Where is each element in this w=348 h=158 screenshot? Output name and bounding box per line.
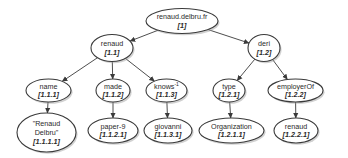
edge-arrow-n12-n121 bbox=[237, 59, 255, 81]
node-id: [1.2.1.1] bbox=[217, 130, 245, 139]
tree-node-n11: renaud[1.1] bbox=[91, 35, 135, 64]
tree-node-n1211: Organization[1.2.1.1] bbox=[199, 118, 266, 145]
node-id: [1.1.2] bbox=[102, 90, 124, 99]
tree-node-n111: name[1.1.1] bbox=[26, 79, 73, 104]
node-id: [1.1.3] bbox=[155, 90, 177, 99]
tree-node-n121: type[1.2.1] bbox=[213, 79, 247, 104]
tree-node-n112: made[1.1.2] bbox=[96, 79, 132, 104]
node-id: [1.1.3.1] bbox=[154, 130, 182, 139]
node-id: [1.2] bbox=[256, 48, 272, 57]
edge-arrow-n121-n1211 bbox=[230, 102, 231, 118]
node-id: [1] bbox=[177, 21, 187, 30]
edge-arrow-n12-n122 bbox=[273, 59, 288, 79]
edge-arrow-root-n11 bbox=[130, 30, 158, 41]
edge-arrow-root-n12 bbox=[208, 30, 249, 43]
tree-node-n1131: giovanni[1.1.3.1] bbox=[144, 118, 194, 145]
tree-node-n1111: "RenaudDelbru"[1.1.1.1] bbox=[17, 113, 78, 154]
node-id: [1.1] bbox=[104, 48, 120, 57]
tree-node-n113: knows-1[1.1.3] bbox=[146, 79, 189, 104]
node-id: [1.2.1] bbox=[218, 90, 240, 99]
node-label-superscript: -1 bbox=[174, 81, 179, 87]
tree-node-n1121: paper-9[1.1.2.1] bbox=[88, 118, 140, 145]
edge-arrow-n11-n111 bbox=[62, 58, 97, 82]
tree-node-n12: deri[1.2] bbox=[248, 35, 282, 64]
node-id: [1.1.1] bbox=[37, 90, 59, 99]
tree-node-n1221: renaud[1.2.2.1] bbox=[274, 118, 320, 145]
tree-node-root: renaud.delbru.fr[1] bbox=[146, 9, 220, 36]
node-id: [1.1.2.1] bbox=[99, 130, 127, 139]
node-id: [1.2.2] bbox=[284, 90, 306, 99]
node-id: [1.2.2.1] bbox=[282, 130, 310, 139]
edge-arrow-n11-n113 bbox=[125, 58, 154, 81]
tree-diagram: renaud.delbru.fr[1]renaud[1.1]deri[1.2]n… bbox=[0, 0, 348, 158]
node-id: [1.1.1.1] bbox=[32, 137, 60, 146]
tree-node-n122: employerOf[1.2.2] bbox=[268, 79, 325, 104]
edge-arrow-n113-n1131 bbox=[167, 102, 168, 118]
